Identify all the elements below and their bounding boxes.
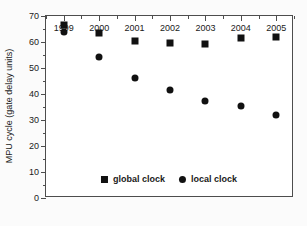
y-tick-label: 20 xyxy=(29,141,39,151)
y-tick-label: 70 xyxy=(29,11,39,21)
x-tick-mark xyxy=(135,16,136,21)
y-axis-label-text: MPU cycle (gate delay units) xyxy=(4,49,14,164)
y-tick-mark xyxy=(41,198,46,199)
chart-figure: MPU cycle (gate delay units) 01020304050… xyxy=(0,0,307,226)
x-tick-mark xyxy=(205,16,206,21)
x-minor-tick-mark xyxy=(152,16,153,19)
x-tick-label: 2005 xyxy=(266,23,286,33)
y-minor-tick-mark xyxy=(43,81,46,82)
y-tick-mark xyxy=(41,146,46,147)
x-tick-label: 2002 xyxy=(160,23,180,33)
x-minor-tick-mark xyxy=(223,16,224,19)
x-tick-mark xyxy=(241,16,242,21)
y-tick-mark xyxy=(41,120,46,121)
y-tick-mark xyxy=(41,94,46,95)
y-tick-label: 30 xyxy=(29,115,39,125)
data-point-square xyxy=(273,34,280,41)
data-point-square xyxy=(167,39,174,46)
data-point-circle xyxy=(202,98,209,105)
x-tick-label: 2003 xyxy=(195,23,215,33)
data-point-circle xyxy=(167,87,174,94)
x-tick-mark xyxy=(276,16,277,21)
x-tick-label: 2001 xyxy=(125,23,145,33)
data-point-circle xyxy=(60,28,67,35)
x-tick-mark xyxy=(170,16,171,21)
legend-entry: local clock xyxy=(179,174,237,184)
x-minor-tick-mark xyxy=(46,16,47,19)
y-minor-tick-mark xyxy=(43,185,46,186)
y-tick-label: 50 xyxy=(29,63,39,73)
legend-swatch-circle xyxy=(179,176,186,183)
data-point-square xyxy=(131,37,138,44)
y-tick-label: 60 xyxy=(29,37,39,47)
y-minor-tick-mark xyxy=(43,55,46,56)
y-tick-mark xyxy=(41,172,46,173)
y-axis-label: MPU cycle (gate delay units) xyxy=(2,15,16,197)
x-tick-label: 2004 xyxy=(231,23,251,33)
y-tick-label: 0 xyxy=(34,193,39,203)
legend-label: global clock xyxy=(113,174,165,184)
data-point-square xyxy=(96,29,103,36)
x-minor-tick-mark xyxy=(117,16,118,19)
plot-area: 010203040506070 199920002001200220032004… xyxy=(45,15,293,197)
data-point-circle xyxy=(96,53,103,60)
data-point-circle xyxy=(273,111,280,118)
y-tick-mark xyxy=(41,68,46,69)
x-minor-tick-mark xyxy=(259,16,260,19)
legend-swatch-square xyxy=(101,176,108,183)
data-point-square xyxy=(202,41,209,48)
x-tick-mark xyxy=(99,16,100,21)
y-minor-tick-mark xyxy=(43,159,46,160)
y-tick-mark xyxy=(41,42,46,43)
x-tick-mark xyxy=(64,16,65,21)
data-point-square xyxy=(237,35,244,42)
data-point-circle xyxy=(131,74,138,81)
chart-legend: global clocklocal clock xyxy=(101,174,237,184)
legend-entry: global clock xyxy=(101,174,165,184)
x-minor-tick-mark xyxy=(81,16,82,19)
y-minor-tick-mark xyxy=(43,29,46,30)
y-tick-label: 10 xyxy=(29,167,39,177)
y-minor-tick-mark xyxy=(43,107,46,108)
y-minor-tick-mark xyxy=(43,133,46,134)
data-point-circle xyxy=(237,103,244,110)
legend-label: local clock xyxy=(191,174,237,184)
y-tick-label: 40 xyxy=(29,89,39,99)
x-minor-tick-mark xyxy=(294,16,295,19)
x-minor-tick-mark xyxy=(188,16,189,19)
